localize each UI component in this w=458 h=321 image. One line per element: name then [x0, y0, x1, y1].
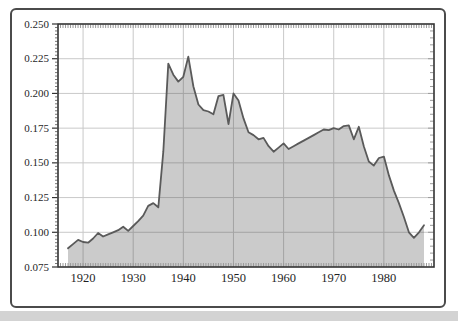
area-chart: 0.0750.1000.1250.1500.1750.2000.2250.250… — [0, 0, 458, 321]
x-tick-label: 1980 — [371, 271, 396, 285]
x-tick-label: 1970 — [321, 271, 346, 285]
y-tick-label: 0.225 — [24, 52, 49, 64]
x-tick-label: 1950 — [221, 271, 246, 285]
y-tick-label: 0.200 — [24, 87, 49, 99]
x-tick-label: 1940 — [171, 271, 196, 285]
y-tick-label: 0.175 — [24, 122, 49, 134]
y-tick-label: 0.250 — [24, 18, 49, 30]
x-tick-label: 1920 — [71, 271, 96, 285]
page: 0.0750.1000.1250.1500.1750.2000.2250.250… — [0, 0, 458, 321]
y-tick-label: 0.075 — [24, 261, 49, 273]
y-tick-label: 0.100 — [24, 226, 49, 238]
y-tick-label: 0.125 — [24, 191, 49, 203]
y-tick-label: 0.150 — [24, 156, 49, 168]
bottom-strip — [0, 311, 458, 321]
x-tick-label: 1930 — [121, 271, 146, 285]
area-fill — [68, 57, 424, 267]
x-tick-label: 1960 — [271, 271, 296, 285]
